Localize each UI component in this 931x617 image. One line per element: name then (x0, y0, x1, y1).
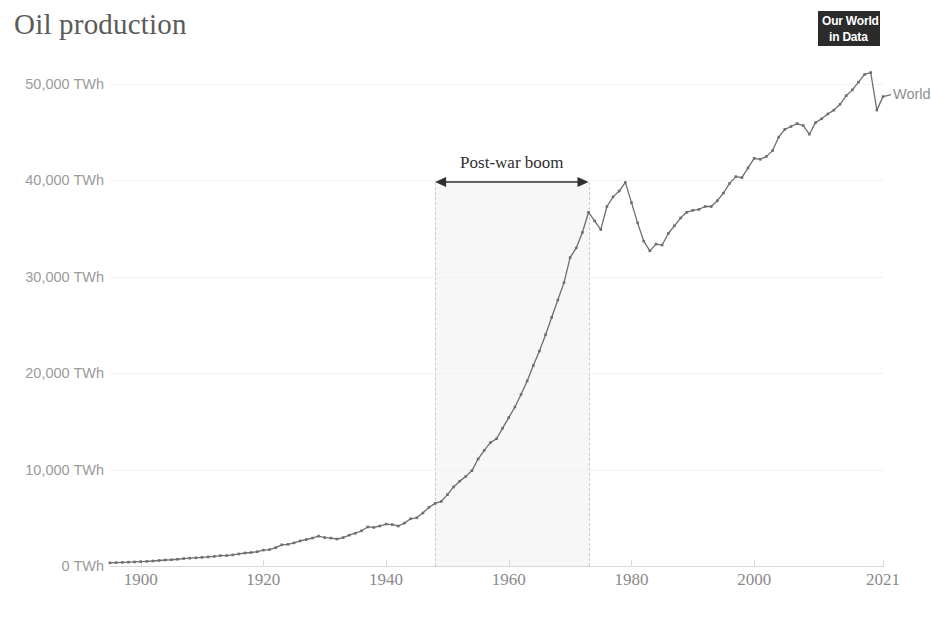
annotation-label: Post-war boom (460, 153, 563, 173)
series-label-world: World (893, 86, 931, 102)
